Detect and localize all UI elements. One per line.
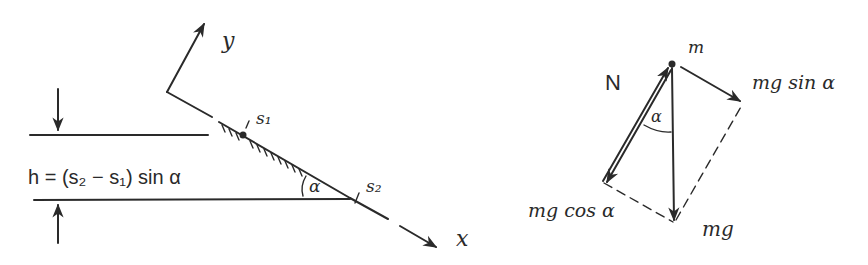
parallel-component-arrow [681,67,740,101]
gravity-arrow [672,68,674,220]
s1-point [240,132,247,139]
parallel-component-label: mg sin α [752,71,835,93]
normal-force-label: N [605,70,621,95]
inclined-plane-diagram: s₁ s₂ α y x h = (s₂ − s₁) sin α [28,24,469,251]
mass-label: m [688,37,704,57]
incline-angle-arc [302,176,306,196]
dashed-line-right [676,105,742,220]
incline-surface [219,122,350,198]
y-axis-label: y [221,28,235,53]
mass-point [669,61,676,68]
lower-height-line [34,199,350,200]
force-angle-label: α [651,107,662,126]
x-axis-arrow [400,226,436,247]
diagram-canvas: s₁ s₂ α y x h = (s₂ − s₁) sin α m mg mg … [0,0,868,265]
x-axis-label: x [456,226,469,251]
s1-tick [246,121,249,128]
y-axis-arrow [167,24,204,92]
s1-label: s₁ [256,108,272,128]
incline-angle-label: α [309,176,321,196]
x-axis-segment-upper [167,92,212,117]
gravity-label: mg [702,217,734,241]
force-angle-arc [644,125,671,132]
height-formula: h = (s₂ − s₁) sin α [28,166,181,188]
perpendicular-component-label: mg cos α [528,199,615,221]
s2-label: s₂ [366,176,382,196]
incline-hatching [222,125,302,176]
force-diagram: m mg mg sin α N mg cos α α [528,37,835,241]
